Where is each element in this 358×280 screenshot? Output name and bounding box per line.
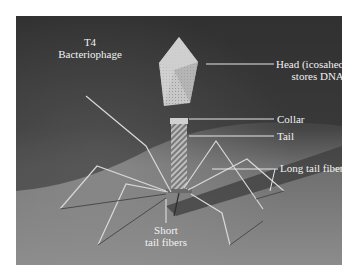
t4-bacteriophage-diagram: T4 Bacteriophage Head (icosahedral) stor… <box>16 16 342 265</box>
label-head-line-2: stores DNA <box>276 70 342 82</box>
label-short-line-1: Short <box>138 224 194 236</box>
diagram-title: T4 Bacteriophage <box>50 36 130 60</box>
phage-tail <box>171 124 187 190</box>
title-line-2: Bacteriophage <box>50 48 130 60</box>
label-head: Head (icosahedral) stores DNA <box>276 58 342 82</box>
label-long-tail-fibers: Long tail fibers <box>280 162 342 174</box>
phage-collar <box>170 118 188 124</box>
label-tail: Tail <box>277 130 294 142</box>
label-short-line-2: tail fibers <box>138 236 194 248</box>
label-collar: Collar <box>277 113 305 125</box>
label-short-tail-fibers: Short tail fibers <box>138 224 194 248</box>
title-line-1: T4 <box>50 36 130 48</box>
label-head-line-1: Head (icosahedral) <box>276 58 342 70</box>
